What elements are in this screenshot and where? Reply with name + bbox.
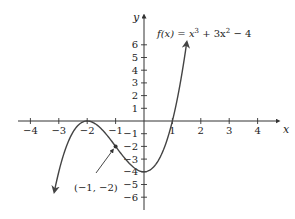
y-tick-label: 4 xyxy=(132,65,138,76)
y-tick-label: −1 xyxy=(123,128,138,139)
y-axis-label: y xyxy=(132,11,140,24)
x-tick-label: −3 xyxy=(51,125,66,136)
y-tick-label: 5 xyxy=(132,52,138,63)
y-tick-label: −4 xyxy=(123,166,138,177)
x-tick-label: 3 xyxy=(226,125,232,136)
y-tick-label: −2 xyxy=(123,141,138,152)
x-tick-label: −4 xyxy=(23,125,38,136)
y-tick-label: −5 xyxy=(123,179,138,190)
annotation-label: (−1, −2) xyxy=(74,182,118,193)
function-curve xyxy=(55,43,187,190)
x-axis-label: x xyxy=(283,123,290,136)
y-tick-label: 2 xyxy=(132,90,138,101)
y-tick-label: 1 xyxy=(132,103,138,114)
x-tick-label: 2 xyxy=(198,125,204,136)
y-tick-label: −6 xyxy=(123,192,138,203)
inflection-point-marker xyxy=(114,144,118,148)
y-tick-label: 3 xyxy=(132,77,138,88)
function-label: f(x) = x3 + 3x2 − 4 xyxy=(156,27,251,39)
x-tick-label: 4 xyxy=(254,125,260,136)
x-tick-label: −1 xyxy=(108,125,123,136)
function-graph: −4−3−2−11234 654321−1−2−3−4−5−6 x y f(x)… xyxy=(0,0,295,219)
y-tick-label: 6 xyxy=(132,39,138,50)
annotation-arrow xyxy=(96,150,113,173)
x-tick-label: −2 xyxy=(80,125,95,136)
